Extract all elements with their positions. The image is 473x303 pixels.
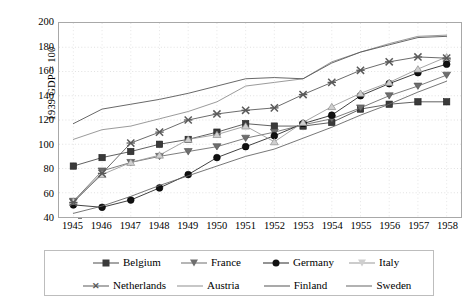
legend-swatch-sweden-icon bbox=[346, 280, 372, 292]
legend-label: Belgium bbox=[123, 257, 161, 268]
x-axis-tick-1952: 1952 bbox=[264, 221, 285, 232]
data-point-marker bbox=[127, 197, 134, 204]
y-axis-tick-40: 40 bbox=[44, 213, 55, 224]
legend-label: Germany bbox=[293, 257, 334, 268]
data-point-marker bbox=[415, 99, 421, 105]
legend-marker-triangle-light-icon bbox=[358, 259, 366, 266]
y-axis-tick-200: 200 bbox=[38, 17, 54, 28]
data-point-marker bbox=[156, 141, 162, 147]
legend-swatch-germany-icon bbox=[263, 257, 289, 269]
legend-label: Sweden bbox=[376, 280, 411, 291]
legend-item-sweden[interactable]: Sweden bbox=[346, 280, 433, 292]
legend-label: Austria bbox=[207, 280, 239, 291]
legend-swatch-belgium-icon bbox=[93, 257, 119, 269]
x-axis-tick-1950: 1950 bbox=[206, 221, 227, 232]
legend-row-1: BelgiumFranceGermanyItaly bbox=[45, 251, 433, 274]
series-finland bbox=[73, 36, 446, 123]
y-axis-tick-labels: 406080100120140160180200 bbox=[24, 22, 54, 218]
data-point-marker bbox=[242, 135, 250, 141]
chart-container: 1939 GDP = 100 406080100120140160180200 … bbox=[0, 0, 473, 303]
legend-line-icon bbox=[264, 285, 290, 286]
y-axis-tick-80: 80 bbox=[44, 164, 55, 175]
x-axis-tick-1947: 1947 bbox=[120, 221, 141, 232]
legend-label: France bbox=[211, 257, 241, 268]
y-axis-tickmark-40 bbox=[78, 218, 82, 219]
legend-label: Italy bbox=[379, 257, 399, 268]
legend-item-italy[interactable]: Italy bbox=[349, 257, 421, 269]
data-point-marker bbox=[443, 72, 451, 78]
data-point-marker bbox=[184, 116, 192, 123]
data-point-marker bbox=[127, 139, 135, 146]
x-axis-tick-1951: 1951 bbox=[235, 221, 256, 232]
series-line bbox=[73, 57, 446, 203]
data-point-marker bbox=[356, 67, 364, 74]
x-axis-tick-labels: 1945194619471948194919501951195219531954… bbox=[58, 221, 462, 237]
series-netherlands bbox=[69, 53, 451, 206]
legend-item-germany[interactable]: Germany bbox=[263, 257, 349, 269]
legend-label: Finland bbox=[294, 280, 328, 291]
x-axis-tick-1958: 1958 bbox=[437, 221, 458, 232]
data-point-marker bbox=[70, 163, 76, 169]
legend-row-2: ✕NetherlandsAustriaFinlandSweden bbox=[45, 274, 433, 297]
x-axis-tick-1955: 1955 bbox=[351, 221, 372, 232]
data-point-marker bbox=[328, 79, 336, 86]
legend-item-netherlands[interactable]: ✕Netherlands bbox=[83, 280, 177, 292]
legend-item-belgium[interactable]: Belgium bbox=[93, 257, 181, 269]
series-germany bbox=[70, 61, 450, 211]
chart-legend: BelgiumFranceGermanyItaly ✕NetherlandsAu… bbox=[44, 250, 434, 296]
legend-item-finland[interactable]: Finland bbox=[264, 280, 347, 292]
legend-line-icon bbox=[346, 285, 372, 286]
y-axis-tick-100: 100 bbox=[38, 139, 54, 150]
legend-line-icon bbox=[177, 285, 203, 286]
x-axis-tick-1946: 1946 bbox=[91, 221, 112, 232]
data-point-marker bbox=[328, 103, 336, 109]
x-axis-tick-1953: 1953 bbox=[293, 221, 314, 232]
legend-item-austria[interactable]: Austria bbox=[177, 280, 264, 292]
x-axis-tick-1956: 1956 bbox=[379, 221, 400, 232]
data-point-marker bbox=[242, 143, 249, 150]
data-point-marker bbox=[414, 66, 422, 72]
y-axis-tick-140: 140 bbox=[38, 90, 54, 101]
legend-swatch-austria-icon bbox=[177, 280, 203, 292]
data-point-marker bbox=[214, 154, 221, 161]
legend-swatch-netherlands-icon: ✕ bbox=[83, 280, 109, 292]
legend-marker-square-icon bbox=[103, 259, 110, 266]
data-point-marker bbox=[357, 90, 365, 96]
data-point-marker bbox=[443, 61, 450, 68]
x-axis-tick-1954: 1954 bbox=[322, 221, 343, 232]
data-point-marker bbox=[385, 93, 393, 99]
data-point-marker bbox=[99, 154, 105, 160]
y-axis-tick-160: 160 bbox=[38, 66, 54, 77]
data-point-marker bbox=[128, 148, 134, 154]
y-axis-tick-60: 60 bbox=[44, 188, 55, 199]
y-axis-tick-180: 180 bbox=[38, 41, 54, 52]
legend-marker-triangle-down-icon bbox=[190, 259, 198, 266]
x-axis-tick-1945: 1945 bbox=[62, 221, 83, 232]
x-axis-tick-1957: 1957 bbox=[408, 221, 429, 232]
series-austria bbox=[73, 35, 446, 139]
data-point-marker bbox=[299, 91, 307, 98]
data-point-marker bbox=[155, 129, 163, 136]
series-line bbox=[73, 35, 446, 139]
plot-area bbox=[58, 22, 462, 218]
legend-swatch-finland-icon bbox=[264, 280, 290, 292]
y-axis-tick-120: 120 bbox=[38, 115, 54, 126]
legend-swatch-italy-icon bbox=[349, 257, 375, 269]
legend-label: Netherlands bbox=[113, 280, 166, 291]
legend-item-france[interactable]: France bbox=[181, 257, 263, 269]
data-point-marker bbox=[443, 99, 449, 105]
x-axis-tick-1948: 1948 bbox=[149, 221, 170, 232]
legend-swatch-france-icon bbox=[181, 257, 207, 269]
data-point-marker bbox=[414, 83, 422, 89]
series-canvas bbox=[59, 23, 461, 217]
series-france bbox=[69, 72, 450, 204]
legend-marker-x-icon: ✕ bbox=[92, 281, 101, 290]
data-point-marker bbox=[328, 112, 335, 119]
data-point-marker bbox=[271, 123, 277, 129]
legend-marker-circle-icon bbox=[273, 259, 280, 266]
x-axis-tick-1949: 1949 bbox=[177, 221, 198, 232]
series-italy bbox=[69, 54, 450, 205]
series-line bbox=[73, 36, 446, 123]
